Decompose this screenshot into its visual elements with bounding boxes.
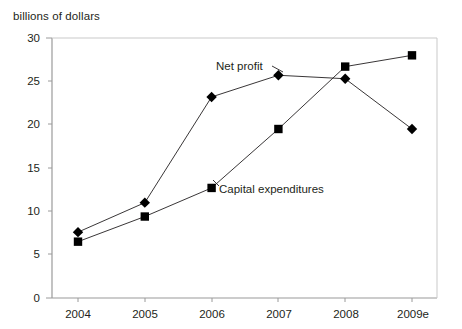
data-point-marker (341, 62, 349, 70)
data-point-marker (207, 184, 215, 192)
data-point-marker (206, 92, 216, 102)
data-point-marker (73, 227, 83, 237)
y-tick-marks (46, 38, 52, 298)
plot-area (0, 0, 462, 329)
series-line (78, 75, 412, 232)
data-point-marker (408, 51, 416, 59)
data-point-marker (74, 237, 82, 245)
data-point-marker (340, 74, 350, 84)
series-capital-expenditures (74, 51, 416, 246)
data-point-marker (141, 212, 149, 220)
data-point-marker (140, 197, 150, 207)
chart-container: billions of dollars 30 25 20 15 10 5 0 2… (0, 0, 462, 329)
series-line (78, 55, 412, 241)
series-net-profit (73, 70, 417, 237)
data-point-marker (407, 124, 417, 134)
data-point-marker (274, 125, 282, 133)
